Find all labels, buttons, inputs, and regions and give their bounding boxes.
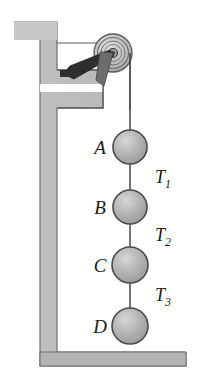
ledge-top-face — [14, 22, 57, 40]
floor — [40, 352, 186, 366]
tension-label-2: T2 — [155, 225, 171, 249]
bracket-base-plate — [60, 70, 74, 77]
mass-labels: A B C D — [92, 137, 107, 337]
mass-label-D: D — [92, 316, 107, 337]
mass-label-C: C — [94, 255, 107, 276]
mass-label-B: B — [94, 197, 106, 218]
mass-label-A: A — [92, 137, 106, 158]
wall-notch-extension — [40, 84, 103, 92]
mass-D — [112, 308, 148, 344]
tension-label-1: T1 — [155, 167, 171, 191]
mass-B — [113, 190, 147, 224]
mass-A — [113, 130, 147, 164]
tension-subscript-1: 1 — [165, 177, 171, 191]
mass-C — [112, 247, 148, 283]
tension-subscript-3: 3 — [164, 295, 171, 309]
physics-diagram-pulley-masses: A B C D T1 T2 T3 — [0, 0, 198, 383]
tension-labels: T1 T2 T3 — [155, 167, 171, 309]
tension-label-3: T3 — [155, 285, 171, 309]
tension-subscript-2: 2 — [165, 235, 171, 249]
